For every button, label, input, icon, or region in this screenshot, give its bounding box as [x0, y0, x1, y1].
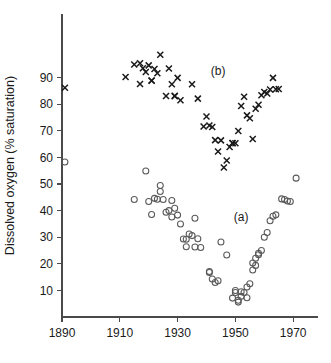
- data-point-circle: [143, 168, 149, 174]
- data-point-circle: [293, 175, 299, 181]
- data-point-circle: [62, 159, 68, 165]
- data-point-cross: [189, 81, 195, 87]
- x-tick-label: 1910: [106, 326, 133, 340]
- y-tick-label: 90: [40, 71, 54, 85]
- axes-group: [62, 14, 318, 317]
- data-point-cross: [157, 52, 163, 58]
- data-point-circle: [218, 239, 224, 245]
- data-point-cross: [172, 93, 178, 99]
- data-point-circle: [172, 205, 178, 211]
- y-tick-label: 50: [40, 177, 54, 191]
- data-point-cross: [163, 93, 169, 99]
- data-point-cross: [195, 96, 201, 102]
- data-point-cross: [204, 113, 210, 119]
- plot-svg: 102030405060708090 18901910193019501970 …: [0, 0, 331, 363]
- data-point-circle: [149, 212, 155, 218]
- data-point-cross: [62, 85, 68, 91]
- y-tick-label: 60: [40, 151, 54, 165]
- data-point-circle: [177, 221, 183, 227]
- data-point-circle: [264, 229, 270, 235]
- x-tick-label: 1950: [222, 326, 249, 340]
- y-axis-title-text: Dissolved oxygen (% saturation): [3, 76, 17, 255]
- data-point-cross: [177, 97, 183, 103]
- data-point-cross: [201, 124, 207, 130]
- y-axis-title: Dissolved oxygen (% saturation): [3, 76, 17, 255]
- x-tick-label: 1930: [164, 326, 191, 340]
- x-tick-label: 1890: [49, 326, 76, 340]
- data-point-cross: [221, 165, 227, 171]
- data-point-cross: [143, 69, 149, 75]
- data-point-cross: [270, 75, 276, 81]
- series-a-points: [62, 159, 299, 305]
- data-point-circle: [131, 196, 137, 202]
- data-point-circle: [230, 295, 236, 301]
- series-label-b: (b): [211, 64, 226, 78]
- data-point-circle: [192, 215, 198, 221]
- data-point-cross: [166, 66, 172, 72]
- data-point-cross: [123, 74, 129, 80]
- data-point-cross: [218, 137, 224, 143]
- data-point-cross: [241, 94, 247, 100]
- y-tick-label: 30: [40, 230, 54, 244]
- x-axis-tick-group: 18901910193019501970: [49, 317, 307, 340]
- series-label-a: (a): [234, 210, 249, 224]
- data-point-circle: [157, 188, 163, 194]
- data-point-circle: [160, 196, 166, 202]
- series-annotations: (b)(a): [211, 64, 249, 224]
- y-axis-tick-group: 102030405060708090: [40, 71, 62, 298]
- data-point-circle: [175, 212, 181, 218]
- data-point-cross: [137, 81, 143, 87]
- data-point-circle: [192, 244, 198, 250]
- y-tick-label: 70: [40, 124, 54, 138]
- y-tick-label: 10: [40, 284, 54, 298]
- series-b-points: [62, 52, 282, 171]
- data-point-circle: [157, 183, 163, 189]
- data-point-cross: [250, 136, 256, 142]
- y-tick-label: 80: [40, 97, 54, 111]
- y-tick-label: 20: [40, 257, 54, 271]
- data-point-circle: [169, 214, 175, 220]
- data-point-cross: [169, 81, 175, 87]
- y-tick-label: 40: [40, 204, 54, 218]
- data-point-cross: [224, 158, 230, 164]
- data-point-cross: [238, 103, 244, 109]
- data-point-cross: [235, 128, 241, 134]
- data-point-circle: [244, 295, 250, 301]
- x-tick-label: 1970: [280, 326, 307, 340]
- data-point-circle: [224, 252, 230, 258]
- data-point-circle: [198, 245, 204, 251]
- dissolved-oxygen-scatter-figure: 102030405060708090 18901910193019501970 …: [0, 0, 331, 363]
- data-point-cross: [175, 75, 181, 81]
- data-point-circle: [169, 197, 175, 203]
- data-point-cross: [247, 115, 253, 121]
- data-point-cross: [212, 137, 218, 143]
- data-point-circle: [195, 236, 201, 242]
- data-point-cross: [131, 62, 137, 68]
- data-point-circle: [146, 199, 152, 205]
- data-point-circle: [183, 244, 189, 250]
- data-point-cross: [215, 149, 221, 155]
- data-point-cross: [149, 78, 155, 84]
- data-point-cross: [146, 62, 152, 68]
